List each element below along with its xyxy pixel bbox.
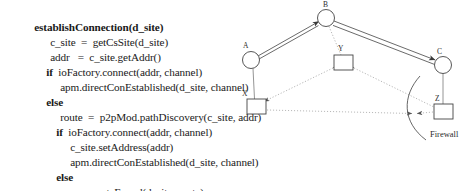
code-text: apm.directConEstablished(d_site, channel… — [70, 156, 258, 168]
node-label-x: X — [242, 89, 248, 98]
edge-a-b — [258, 21, 319, 59]
node-label-c: C — [437, 47, 442, 56]
node-label-b: B — [323, 0, 328, 9]
node-label-z: Z — [435, 94, 440, 103]
network-diagram: A B C X Y Z Firewall — [234, 0, 471, 191]
node-a[interactable] — [243, 52, 260, 69]
node-label-y: Y — [338, 44, 344, 53]
edge-x-firewall — [267, 110, 412, 114]
edge-y-x — [264, 68, 333, 102]
edge-z-firewall — [417, 112, 433, 114]
edge-y-z — [354, 68, 440, 110]
node-label-a: A — [243, 41, 249, 50]
firewall-label: Firewall — [430, 129, 459, 139]
code-text: apm.routeFound(d_site, route) — [70, 186, 204, 191]
code-text: apm.directConEstablished(d_site, channel… — [60, 81, 248, 93]
node-x[interactable] — [247, 99, 266, 114]
edge-a-x — [253, 69, 255, 100]
node-b[interactable] — [318, 10, 335, 27]
node-y[interactable] — [334, 55, 353, 70]
pseudocode-block: establishConnection(d_site) c_site = get… — [0, 0, 234, 191]
node-c[interactable] — [435, 57, 452, 74]
figure-root: establishConnection(d_site) c_site = get… — [0, 0, 471, 191]
code-line-11: apm.routeFound(d_site, route) — [54, 173, 204, 191]
firewall-arc — [407, 76, 426, 140]
node-z[interactable] — [434, 104, 453, 119]
